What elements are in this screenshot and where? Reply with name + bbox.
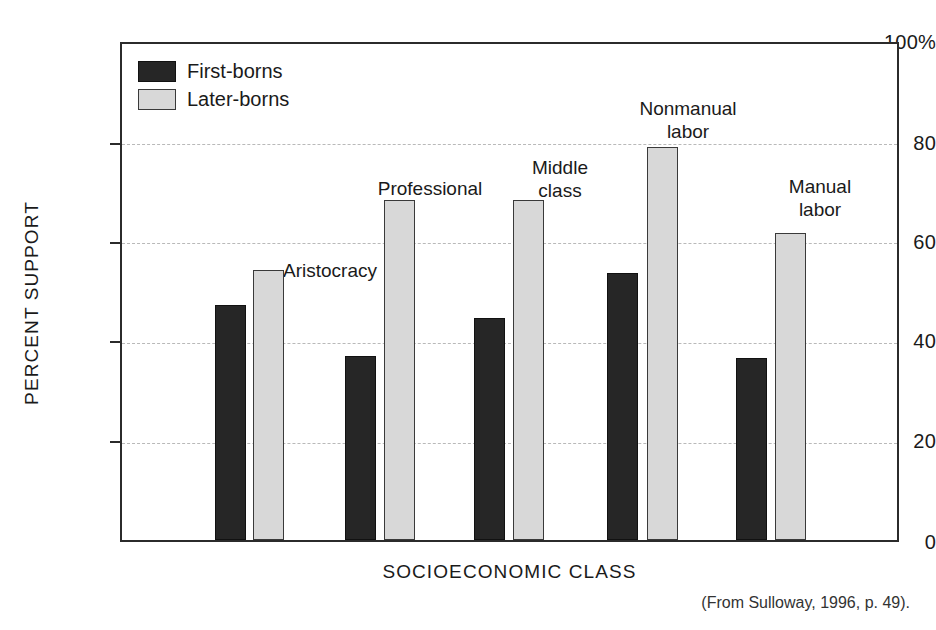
plot-area: First-borns Later-borns Aristocracy Prof… xyxy=(120,42,899,542)
x-axis-title: SOCIOECONOMIC CLASS xyxy=(120,561,899,583)
group-label-nonmanual-labor: Nonmanual labor xyxy=(588,97,788,143)
bar-first-borns-nonmanual-labor xyxy=(607,273,638,540)
bar-first-borns-middle-class xyxy=(474,318,505,540)
legend-label-later-borns: Later-borns xyxy=(187,89,289,109)
bar-first-borns-manual-labor xyxy=(736,358,767,540)
gridline-80 xyxy=(122,144,897,145)
group-label-middle-class: Middle class xyxy=(480,156,640,202)
bar-first-borns-aristocracy xyxy=(215,305,246,540)
bar-later-borns-manual-labor xyxy=(775,233,806,540)
y-tick-mark-40 xyxy=(110,341,120,343)
legend-item-later-borns: Later-borns xyxy=(138,85,289,113)
bar-later-borns-aristocracy xyxy=(253,270,284,540)
bar-later-borns-professional xyxy=(384,200,415,540)
dark-swatch-icon xyxy=(138,61,176,82)
bar-first-borns-professional xyxy=(345,356,376,540)
y-tick-mark-20 xyxy=(110,441,120,443)
legend-label-first-borns: First-borns xyxy=(187,61,283,81)
bar-later-borns-nonmanual-labor xyxy=(647,147,678,540)
group-label-manual-labor: Manual labor xyxy=(730,175,910,221)
y-tick-mark-60 xyxy=(110,242,120,244)
y-axis-title: PERCENT SUPPORT xyxy=(21,123,43,483)
bar-later-borns-middle-class xyxy=(513,200,544,540)
bar-chart-figure: 100% 80 60 40 20 0 PERCENT SUPPORT First… xyxy=(0,0,936,630)
light-swatch-icon xyxy=(138,89,176,110)
legend-item-first-borns: First-borns xyxy=(138,57,289,85)
source-attribution: (From Sulloway, 1996, p. 49). xyxy=(701,594,910,612)
y-tick-mark-80 xyxy=(110,143,120,145)
legend: First-borns Later-borns xyxy=(138,57,289,113)
